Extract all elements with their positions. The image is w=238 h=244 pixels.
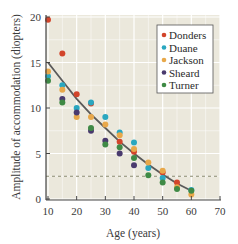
data-point-turner (145, 172, 151, 178)
data-point-jackson (145, 160, 151, 166)
x-axis-title: Age (years) (106, 227, 160, 240)
legend-swatch-donders (162, 33, 167, 38)
accommodation-scatter-chart: 10203040506070 05101520 Age (years) Ampl… (0, 0, 238, 244)
legend-swatch-jackson (162, 58, 167, 63)
x-tick-label: 10 (43, 205, 55, 217)
data-point-jackson (117, 132, 123, 138)
data-point-turner (102, 141, 108, 147)
x-tick-label: 40 (129, 205, 141, 217)
data-point-duane (131, 140, 137, 146)
x-tick-label: 30 (100, 205, 112, 217)
x-tick-label: 60 (186, 205, 198, 217)
legend-label-donders: Donders (169, 29, 206, 41)
data-point-sheard (131, 162, 137, 168)
data-point-turner (117, 144, 123, 150)
legend: DondersDuaneJacksonSheardTurner (157, 25, 213, 93)
y-tick-label: 5 (36, 148, 42, 160)
y-tick-label: 15 (30, 57, 42, 69)
legend-swatch-sheard (162, 70, 167, 75)
x-tick-label: 70 (215, 205, 227, 217)
legend-swatch-duane (162, 45, 167, 50)
legend-label-duane: Duane (169, 42, 198, 54)
y-tick-label: 0 (36, 193, 42, 205)
data-point-turner (59, 100, 65, 106)
legend-label-sheard: Sheard (169, 67, 200, 79)
data-point-duane (102, 114, 108, 120)
data-point-duane (145, 165, 151, 171)
data-point-turner (174, 186, 180, 192)
x-tick-label: 50 (157, 205, 169, 217)
data-point-jackson (59, 87, 65, 93)
data-point-turner (88, 125, 94, 131)
data-point-jackson (102, 121, 108, 127)
data-point-turner (131, 155, 137, 161)
data-point-donders (117, 139, 123, 145)
y-axis-title: Amplitude of accommodation (diopters) (10, 14, 23, 200)
legend-label-jackson: Jackson (169, 54, 204, 66)
data-point-jackson (131, 146, 137, 152)
data-point-turner (160, 180, 166, 186)
data-point-jackson (160, 168, 166, 174)
legend-swatch-turner (162, 83, 167, 88)
data-point-turner (188, 188, 194, 194)
x-tick-label: 20 (71, 205, 83, 217)
y-tick-label: 20 (30, 11, 42, 23)
data-point-sheard (117, 151, 123, 157)
legend-label-turner: Turner (169, 79, 199, 91)
data-point-sheard (74, 110, 80, 116)
data-point-donders (59, 50, 65, 56)
data-point-jackson (88, 114, 94, 120)
data-point-duane (88, 100, 94, 106)
y-tick-label: 10 (30, 102, 42, 114)
data-point-donders (74, 91, 80, 97)
